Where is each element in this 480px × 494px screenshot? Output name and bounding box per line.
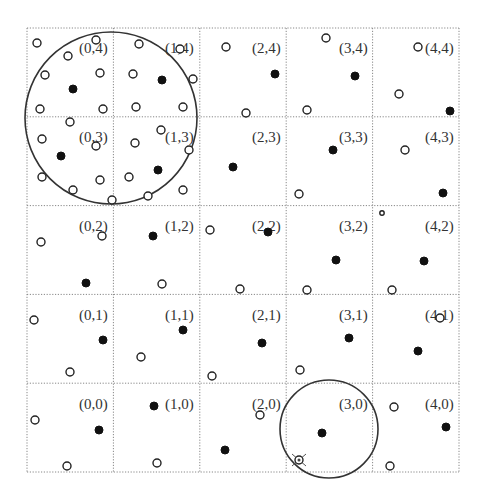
open-point-icon — [157, 126, 165, 134]
open-point-icon — [137, 353, 145, 361]
filled-point-icon — [420, 257, 428, 265]
open-point-icon — [303, 106, 311, 114]
filled-point-icon — [69, 85, 77, 93]
large-query-circle — [25, 32, 197, 204]
open-point-icon — [66, 118, 74, 126]
open-point-icon — [31, 416, 39, 424]
cell-label: (3,1) — [339, 307, 368, 324]
open-point-icon — [38, 173, 46, 181]
filled-point-icon — [179, 326, 187, 334]
cell-label: (1,0) — [165, 396, 194, 413]
open-point-icon — [179, 103, 187, 111]
cell-label: (4,2) — [425, 218, 454, 235]
open-point-icon — [436, 314, 444, 322]
filled-point-icon — [329, 146, 337, 154]
filled-point-icon — [446, 107, 454, 115]
cell-label: (4,4) — [425, 40, 454, 57]
small-open-point-icon — [380, 211, 384, 215]
filled-point-icon — [149, 232, 157, 240]
range-query-circles — [25, 32, 378, 478]
open-point-icon — [322, 34, 330, 42]
filled-point-icon — [57, 152, 65, 160]
cell-label: (3,2) — [339, 218, 368, 235]
open-point-icon — [66, 368, 74, 376]
open-point-icon — [41, 71, 49, 79]
open-point-icon — [189, 75, 197, 83]
open-point-icon — [98, 232, 106, 240]
filled-point-icon — [318, 429, 326, 437]
open-point-icon — [33, 39, 41, 47]
open-point-icon — [303, 286, 311, 294]
filled-point-icon — [345, 334, 353, 342]
cell-label: (0,1) — [79, 307, 108, 324]
filled-point-icon — [150, 402, 158, 410]
cell-label: (3,3) — [339, 129, 368, 146]
open-point-icon — [135, 40, 143, 48]
cell-label: (1,1) — [165, 307, 194, 324]
filled-point-icon — [332, 256, 340, 264]
open-point-icon — [236, 285, 244, 293]
filled-point-icon — [221, 446, 229, 454]
filled-point-icon — [95, 426, 103, 434]
filled-point-icon — [414, 347, 422, 355]
open-point-icon — [153, 459, 161, 467]
open-point-icon — [64, 52, 72, 60]
cell-label: (1,2) — [165, 218, 194, 235]
cell-label: (4,3) — [425, 129, 454, 146]
grid-diagram: (0,4)(1,4)(2,4)(3,4)(4,4)(0,3)(1,3)(2,3)… — [0, 0, 480, 494]
crossed-point-icon — [292, 454, 306, 466]
open-point-icon — [99, 105, 107, 113]
open-point-icon — [38, 135, 46, 143]
filled-point-icon — [442, 423, 450, 431]
open-point-icon — [395, 90, 403, 98]
open-point-icon — [208, 372, 216, 380]
cell-label: (3,4) — [339, 40, 368, 57]
open-point-icon — [256, 411, 264, 419]
cell-label: (2,3) — [252, 129, 281, 146]
open-point-icon — [206, 226, 214, 234]
cell-label: (2,0) — [252, 396, 281, 413]
cell-label: (0,0) — [79, 396, 108, 413]
open-point-icon — [158, 280, 166, 288]
filled-point-icon — [264, 228, 272, 236]
filled-point-icon — [158, 76, 166, 84]
open-point-icon — [37, 238, 45, 246]
filled-point-icon — [229, 163, 237, 171]
open-point-icon — [131, 139, 139, 147]
open-point-icon — [30, 316, 38, 324]
open-point-icon — [390, 403, 398, 411]
open-point-icon — [36, 105, 44, 113]
filled-point-icon — [99, 336, 107, 344]
filled-point-icon — [154, 166, 162, 174]
open-point-icon — [96, 69, 104, 77]
cell-label: (4,0) — [425, 396, 454, 413]
cell-label: (2,4) — [252, 40, 281, 57]
open-point-icon — [96, 176, 104, 184]
open-point-icon — [401, 146, 409, 154]
open-point-icon — [92, 36, 100, 44]
filled-point-icon — [82, 279, 90, 287]
filled-point-icon — [271, 70, 279, 78]
open-point-icon — [185, 146, 193, 154]
open-point-icon — [386, 462, 394, 470]
filled-point-icon — [258, 339, 266, 347]
open-point-icon — [222, 43, 230, 51]
open-point-icon — [132, 103, 140, 111]
open-point-icon — [179, 186, 187, 194]
open-point-icon — [144, 192, 152, 200]
open-point-icon — [129, 70, 137, 78]
filled-point-icon — [351, 72, 359, 80]
open-point-icon — [295, 190, 303, 198]
open-point-icon — [388, 286, 396, 294]
open-point-icon — [296, 366, 304, 374]
open-point-icon — [92, 142, 100, 150]
open-point-icon — [242, 109, 250, 117]
open-point-icon — [108, 196, 116, 204]
open-point-icon — [125, 173, 133, 181]
open-point-icon — [414, 43, 422, 51]
open-point-icon — [69, 186, 77, 194]
filled-point-icon — [439, 189, 447, 197]
cell-label: (3,0) — [339, 396, 368, 413]
cell-label: (2,1) — [252, 307, 281, 324]
cell-label: (1,3) — [165, 129, 194, 146]
